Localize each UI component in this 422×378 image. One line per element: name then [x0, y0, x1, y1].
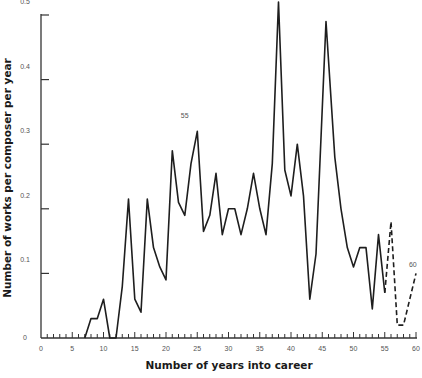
- line-chart: 00.10.20.30.40.5 05101520253035404550556…: [0, 0, 422, 378]
- y-tick-label: 0.3: [20, 127, 30, 134]
- x-tick-label: 0: [39, 345, 43, 352]
- y-tick-label: 0.5: [20, 0, 30, 5]
- annotation-label: 60: [409, 261, 417, 268]
- series-solid-line: [85, 2, 385, 338]
- x-tick-label: 55: [381, 345, 389, 352]
- x-tick-label: 40: [287, 345, 295, 352]
- y-axis: 00.10.20.30.40.5: [20, 0, 49, 341]
- annotations: 5560: [181, 112, 417, 268]
- y-tick-label: 0.2: [20, 192, 30, 199]
- annotation-label: 55: [181, 112, 189, 119]
- x-tick-label: 35: [256, 345, 264, 352]
- x-axis-title: Number of years into career: [145, 359, 313, 371]
- x-tick-label: 25: [193, 345, 201, 352]
- y-tick-label: 0.4: [20, 63, 30, 70]
- x-tick-label: 30: [225, 345, 233, 352]
- x-tick-label: 60: [412, 345, 420, 352]
- data-series: [85, 2, 416, 338]
- series-dashed-line: [385, 222, 416, 325]
- x-tick-label: 10: [100, 345, 108, 352]
- x-tick-label: 45: [318, 345, 326, 352]
- y-axis-title: Number of works per composer per year: [1, 57, 13, 297]
- x-tick-label: 20: [162, 345, 170, 352]
- y-tick-label: 0: [23, 334, 27, 341]
- y-tick-label: 0.1: [20, 256, 30, 263]
- x-tick-label: 50: [350, 345, 358, 352]
- x-tick-label: 5: [70, 345, 74, 352]
- x-tick-label: 15: [131, 345, 139, 352]
- x-axis: 051015202530354045505560: [39, 332, 420, 352]
